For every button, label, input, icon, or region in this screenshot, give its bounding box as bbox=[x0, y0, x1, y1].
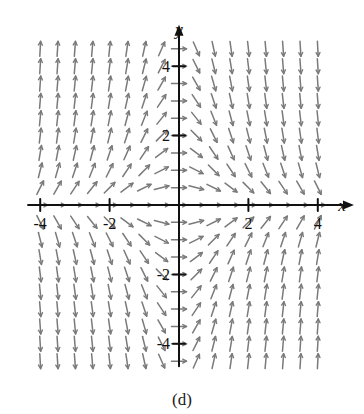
y-axis-label: y bbox=[173, 20, 183, 39]
x-tick-label: 4 bbox=[314, 215, 322, 232]
direction-field-figure: -4-224-4-224 yx (d) bbox=[0, 0, 364, 414]
y-tick-label: 4 bbox=[162, 58, 170, 75]
x-tick-label: 2 bbox=[244, 215, 252, 232]
x-tick-label: -4 bbox=[34, 215, 47, 232]
y-tick-label: -2 bbox=[157, 266, 170, 283]
x-axis-label: x bbox=[337, 196, 346, 215]
y-tick-label: -4 bbox=[157, 335, 170, 352]
x-tick-label: -2 bbox=[103, 215, 116, 232]
axis-labels-group: yx bbox=[173, 20, 346, 215]
direction-field-plot: -4-224-4-224 yx bbox=[0, 0, 364, 414]
y-tick-label: 2 bbox=[162, 127, 170, 144]
figure-caption: (d) bbox=[0, 390, 364, 410]
